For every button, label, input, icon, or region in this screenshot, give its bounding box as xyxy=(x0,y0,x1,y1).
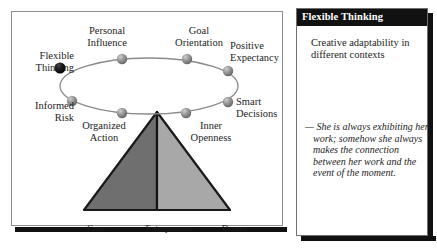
node-inner-openness[interactable] xyxy=(181,108,191,118)
node-smart-decisions[interactable] xyxy=(223,97,233,107)
node-goal-orientation[interactable] xyxy=(182,54,192,64)
triangle-base-label-dream: Dream xyxy=(210,223,258,233)
node-label-smart-decisions: Smart Decisions xyxy=(236,96,292,119)
competency-ellipse-ring xyxy=(60,58,238,114)
card-title: Flexible Thinking xyxy=(302,11,383,22)
node-label-flexible-thinking: Flexible Thinking xyxy=(18,50,74,73)
node-label-goal-orientation: Goal Orientation xyxy=(160,25,238,48)
card-body: Creative adaptability in different conte… xyxy=(297,26,427,235)
node-label-organized-action: Organized Action xyxy=(70,120,138,143)
card-header-bar: Flexible Thinking xyxy=(297,9,427,26)
node-label-personal-influence: Personal Influence xyxy=(72,25,142,48)
card-description: Creative adaptability in different conte… xyxy=(311,37,421,61)
card-quote: — She is always exhibiting her work; som… xyxy=(305,121,429,179)
triangle-base-label-entrepreneur: Entrepreneur xyxy=(134,223,204,233)
node-label-positive-expectancy: Positive Expectancy xyxy=(230,40,292,63)
flexible-thinking-card: Flexible Thinking Creative adaptability … xyxy=(296,8,428,236)
node-label-informed-risk: Informed Risk xyxy=(18,100,74,123)
node-personal-influence[interactable] xyxy=(117,54,127,64)
node-label-inner-openness: Inner Openness xyxy=(180,120,242,143)
diagram-panel: Flexible Thinking Personal Influence Goa… xyxy=(11,11,283,226)
triangle-base-label-core: Core xyxy=(74,223,118,233)
node-positive-expectancy[interactable] xyxy=(223,66,233,76)
card-drop-shadow-bottom xyxy=(301,236,436,241)
node-organized-action[interactable] xyxy=(117,108,127,118)
